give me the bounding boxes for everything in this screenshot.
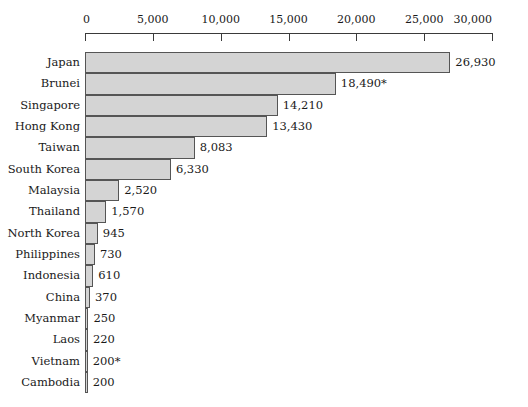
value-label: 14,210 — [283, 95, 323, 116]
bar — [85, 265, 93, 286]
bar-row: Taiwan8,083 — [0, 137, 528, 158]
category-label: Brunei — [41, 73, 80, 94]
bar-row: Thailand1,570 — [0, 201, 528, 222]
value-label: 2,520 — [124, 180, 157, 201]
axis-tick-label: 25,000 — [405, 14, 444, 26]
bar — [85, 244, 95, 265]
bar-row: Hong Kong13,430 — [0, 116, 528, 137]
axis-tick-label: 15,000 — [269, 14, 308, 26]
value-label: 945 — [103, 223, 125, 244]
bar — [85, 73, 336, 94]
bar-row: Cambodia200 — [0, 372, 528, 393]
chart-x-axis: 05,00010,00015,00020,00025,00030,000 — [0, 0, 528, 52]
category-label: Myanmar — [24, 308, 80, 329]
bar-row: Philippines730 — [0, 244, 528, 265]
axis-tick-mark — [221, 33, 222, 41]
axis-tick-label: 30,000 — [454, 14, 493, 26]
category-label: China — [46, 287, 80, 308]
category-label: Taiwan — [39, 137, 80, 158]
value-label: 8,083 — [200, 137, 233, 158]
bar-row: Indonesia610 — [0, 265, 528, 286]
bar-row: Singapore14,210 — [0, 95, 528, 116]
category-label: Cambodia — [21, 372, 80, 393]
bar — [85, 201, 106, 222]
bar-row: Myanmar250 — [0, 308, 528, 329]
category-label: Vietnam — [32, 351, 80, 372]
value-label: 200* — [93, 351, 121, 372]
category-label: Japan — [47, 52, 80, 73]
bar — [85, 52, 450, 73]
axis-tick-label: 0 — [83, 14, 90, 26]
category-label: Indonesia — [23, 265, 80, 286]
axis-tick-label: 10,000 — [201, 14, 240, 26]
bar-row: North Korea945 — [0, 223, 528, 244]
bar — [85, 137, 195, 158]
bar-row: South Korea6,330 — [0, 159, 528, 180]
bar-row: Malaysia2,520 — [0, 180, 528, 201]
category-label: Philippines — [15, 244, 80, 265]
axis-tick-mark — [492, 33, 493, 41]
value-label: 6,330 — [176, 159, 209, 180]
category-label: Hong Kong — [15, 116, 80, 137]
category-label: North Korea — [7, 223, 80, 244]
bar-row: Brunei18,490* — [0, 73, 528, 94]
axis-tick-mark — [424, 33, 425, 41]
category-label: Laos — [53, 329, 80, 350]
bar — [85, 116, 267, 137]
axis-tick-mark — [289, 33, 290, 41]
axis-tick-mark — [153, 33, 154, 41]
category-label: Malaysia — [28, 180, 80, 201]
value-label: 730 — [100, 244, 122, 265]
bar-row: China370 — [0, 287, 528, 308]
value-label: 18,490* — [341, 73, 387, 94]
bar — [85, 329, 88, 350]
value-label: 220 — [93, 329, 115, 350]
chart-plot-area: Japan26,930Brunei18,490*Singapore14,210H… — [0, 52, 528, 382]
value-label: 13,430 — [272, 116, 312, 137]
bar — [85, 95, 278, 116]
bar — [85, 308, 88, 329]
axis-tick-mark — [356, 33, 357, 41]
axis-tick-mark — [85, 33, 86, 41]
value-label: 1,570 — [111, 201, 144, 222]
value-label: 610 — [98, 265, 120, 286]
axis-tick-label: 5,000 — [137, 14, 169, 26]
category-label: Thailand — [29, 201, 80, 222]
bar — [85, 180, 119, 201]
category-label: South Korea — [8, 159, 80, 180]
bar-row: Laos220 — [0, 329, 528, 350]
bar — [85, 223, 98, 244]
bar-row: Japan26,930 — [0, 52, 528, 73]
category-label: Singapore — [20, 95, 80, 116]
value-label: 26,930 — [455, 52, 495, 73]
bar — [85, 287, 90, 308]
bar — [85, 372, 88, 393]
bar — [85, 351, 88, 372]
bar-row: Vietnam200* — [0, 351, 528, 372]
bar-chart: 05,00010,00015,00020,00025,00030,000 Jap… — [0, 0, 528, 407]
bar — [85, 159, 171, 180]
value-label: 370 — [95, 287, 117, 308]
axis-tick-label: 20,000 — [337, 14, 376, 26]
value-label: 200 — [93, 372, 115, 393]
value-label: 250 — [93, 308, 115, 329]
